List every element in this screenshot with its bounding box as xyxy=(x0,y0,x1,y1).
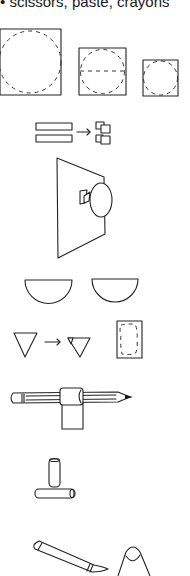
crayon-and-cone xyxy=(34,541,150,576)
squares-with-dashed-circles xyxy=(0,29,178,96)
half-circles xyxy=(25,279,138,303)
pencil-roll xyxy=(11,388,133,429)
strips-to-pieces xyxy=(36,122,110,144)
trapezoid-with-oval xyxy=(57,158,112,258)
triangle-fold xyxy=(14,321,142,358)
craft-diagram xyxy=(0,0,190,576)
tubes xyxy=(35,459,75,499)
